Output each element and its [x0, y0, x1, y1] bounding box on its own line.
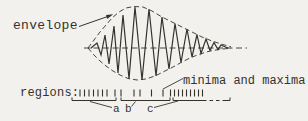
- envelope-label: envelope: [13, 18, 78, 33]
- region-brackets: [72, 98, 230, 101]
- bracket-region-c-left: [173, 98, 203, 101]
- wave-diagram: envelope regions: minima and maxima a b …: [0, 0, 308, 121]
- pointer-to-c: [154, 101, 178, 108]
- region-c-label: c: [147, 103, 154, 115]
- pointer-to-a: [90, 102, 112, 108]
- tick-marks: [80, 90, 203, 97]
- scanned-figure: envelope regions: minima and maxima a b …: [0, 0, 308, 121]
- pointer-to-b: [132, 102, 136, 107]
- regions-label: regions:: [20, 86, 79, 100]
- minima-maxima-label: minima and maxima: [183, 74, 305, 88]
- region-a-label: a: [113, 103, 120, 115]
- bracket-region-b: [121, 98, 170, 101]
- envelope-arrow: [79, 14, 113, 26]
- envelope-arrow-shaft: [79, 16, 111, 27]
- pointer-minima-maxima: [163, 79, 183, 90]
- wave-packet-polyline: [91, 7, 228, 80]
- region-b-label: b: [125, 103, 132, 115]
- waveform: [91, 7, 228, 80]
- pointer-lines: [90, 79, 183, 108]
- envelope-arrowhead: [106, 14, 113, 19]
- bracket-region-c-right: [224, 98, 230, 101]
